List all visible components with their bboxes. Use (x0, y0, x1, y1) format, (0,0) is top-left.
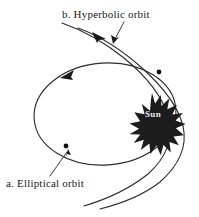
hyperbola-body-marker (157, 70, 162, 75)
sun-icon (130, 93, 186, 155)
hyperbolic-orbit-label: b. Hyperbolic orbit (62, 8, 150, 21)
orbit-diagram-figure: b. Hyperbolic orbit a. Elliptical orbit … (0, 0, 199, 217)
elliptical-label-leader (50, 152, 67, 176)
hyperbolic-leader-arrow-icon (111, 35, 119, 44)
ellipse-body-marker (64, 144, 69, 149)
elliptical-orbit-label: a. Elliptical orbit (6, 177, 84, 190)
